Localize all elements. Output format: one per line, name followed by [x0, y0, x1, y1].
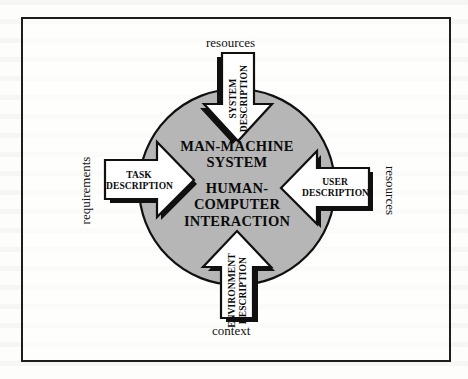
bottom-arrow-label-line2: DESCRIPTION: [238, 257, 248, 324]
center-line-3: HUMAN-: [152, 180, 322, 196]
outer-label-bottom-context: context: [212, 324, 250, 337]
left-arrow-label-line1: TASK: [126, 170, 152, 180]
outer-label-right-resources: resources: [384, 148, 397, 234]
center-line-5: INTERACTION: [152, 213, 322, 229]
center-label: MAN-MACHINE SYSTEM HUMAN- COMPUTER INTER…: [152, 138, 322, 229]
figure-page: MAN-MACHINE SYSTEM HUMAN- COMPUTER INTER…: [0, 0, 468, 379]
top-arrow-label-line1: SYSTEM: [228, 79, 238, 119]
top-arrow-label-line2: DESCRIPTION: [239, 65, 249, 132]
right-arrow-label: USER DESCRIPTION: [302, 177, 368, 198]
outer-label-top-resources: resources: [206, 36, 255, 49]
outer-label-left-requirements: requirements: [79, 148, 92, 234]
right-arrow-label-line1: USER: [322, 177, 348, 187]
center-line-2: SYSTEM: [152, 154, 322, 170]
diagram-stage: MAN-MACHINE SYSTEM HUMAN- COMPUTER INTER…: [0, 0, 468, 379]
right-arrow-label-line2: DESCRIPTION: [302, 188, 369, 198]
left-arrow-label: TASK DESCRIPTION: [106, 170, 172, 191]
top-arrow-label: SYSTEM DESCRIPTION: [228, 50, 249, 148]
bottom-arrow-label-line1: ENVIRONMENT: [227, 253, 237, 327]
left-arrow-label-line2: DESCRIPTION: [106, 181, 173, 191]
center-line-4: COMPUTER: [152, 196, 322, 212]
